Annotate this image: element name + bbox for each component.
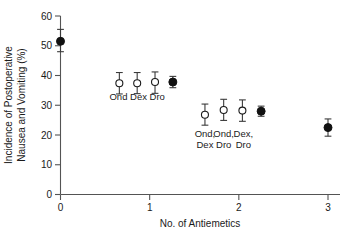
x-tick-label: 0 — [58, 202, 64, 213]
annotation-text: Ond, — [213, 128, 234, 139]
chart-figure: 0102030405060 0123 No. of Antiemetics In… — [0, 0, 348, 235]
marker-filled-circle — [169, 78, 177, 86]
marker-filled-circle — [324, 124, 332, 132]
marker-open-circle — [116, 80, 123, 87]
y-axis-title-line2: Nausea and Vomiting (%) — [16, 48, 27, 161]
x-tick-label: 2 — [236, 202, 242, 213]
y-tick-label: 10 — [41, 159, 53, 170]
data-point-dex-dro — [239, 100, 246, 121]
data-point-two-antiemetic-pooled — [257, 106, 265, 116]
y-axis-tick-labels: 0102030405060 — [41, 11, 53, 201]
y-tick-label: 20 — [41, 130, 53, 141]
marker-open-circle — [134, 80, 141, 87]
data-point-no-antiemetic-pooled — [57, 29, 65, 51]
marker-open-circle — [220, 107, 227, 114]
data-point-ond-dro — [220, 99, 227, 120]
y-axis-title-line1: Incidence of Postoperative — [3, 46, 14, 164]
annotation-text: Dex, — [234, 128, 254, 139]
x-tick-label: 1 — [147, 202, 153, 213]
x-axis-tick-marks — [61, 195, 329, 201]
data-points-layer — [57, 29, 333, 136]
marker-filled-circle — [257, 107, 265, 115]
annotation-text: Dex — [196, 139, 213, 150]
y-tick-label: 40 — [41, 70, 53, 81]
data-point-ond-dex — [201, 104, 208, 125]
y-tick-label: 60 — [41, 11, 53, 22]
annotation-text: Ond Dex Dro — [109, 91, 164, 102]
marker-open-circle — [239, 107, 246, 114]
data-point-three-antiemetic-pooled — [324, 119, 332, 136]
annotation-text: Dro — [236, 139, 251, 150]
y-tick-label: 50 — [41, 40, 53, 51]
data-point-one-antiemetic-pooled — [169, 76, 177, 87]
scatter-plot-canvas: 0102030405060 0123 No. of Antiemetics In… — [0, 0, 348, 235]
y-tick-label: 30 — [41, 100, 53, 111]
x-axis-title: No. of Antiemetics — [160, 218, 241, 229]
group-annotations-layer: Ond Dex DroOnd,DexOnd,DroDex,Dro — [109, 91, 253, 150]
marker-open-circle — [201, 111, 208, 118]
x-tick-label: 3 — [325, 202, 331, 213]
marker-filled-circle — [57, 37, 65, 45]
annotation-text: Dro — [216, 139, 231, 150]
y-tick-label: 0 — [46, 189, 52, 200]
marker-open-circle — [152, 79, 159, 86]
x-axis: 0123 — [58, 195, 340, 214]
x-axis-tick-labels: 0123 — [58, 202, 332, 213]
annotation-text: Ond, — [195, 128, 216, 139]
